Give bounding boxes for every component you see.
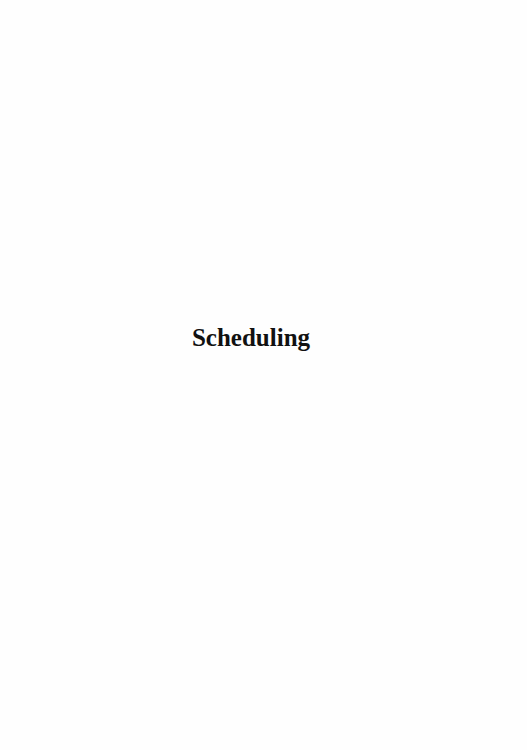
document-page: Scheduling <box>0 0 527 750</box>
page-title: Scheduling <box>0 322 502 354</box>
